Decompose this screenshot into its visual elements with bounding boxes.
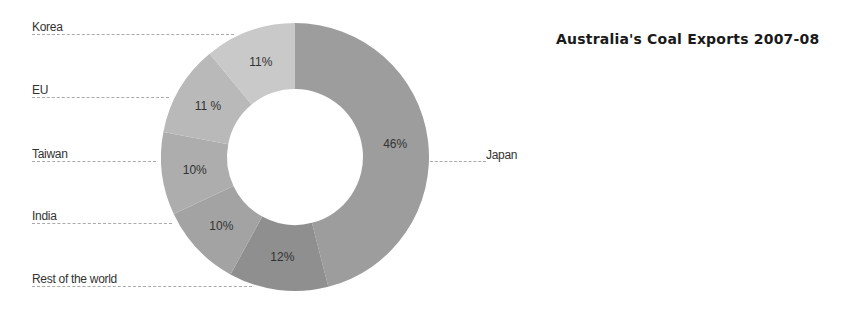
value-label: 10% bbox=[209, 219, 233, 233]
value-label: 11 % bbox=[195, 99, 222, 113]
value-label: 12% bbox=[270, 250, 294, 264]
value-label: 11% bbox=[249, 55, 272, 69]
value-label: 10% bbox=[183, 163, 207, 177]
value-label: 46% bbox=[383, 137, 407, 151]
donut-chart: 46%12%10%10%11 %11% bbox=[0, 0, 856, 312]
